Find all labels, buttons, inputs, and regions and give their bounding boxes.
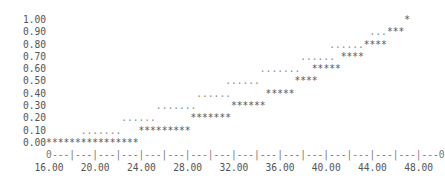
ascii-cdf-plot: 1.00 *0.90 ...***0.80 ......****0.70: [23, 14, 445, 174]
blank-space: [231, 88, 266, 99]
reference-dots: ......: [300, 51, 335, 62]
blank-space: [46, 125, 81, 136]
blank-space: [196, 100, 231, 111]
blank-space: [46, 14, 404, 25]
step-stars: *: [404, 14, 410, 25]
y-tick-label: 0.00: [23, 137, 46, 148]
y-tick-label: 0.20: [23, 112, 46, 123]
y-tick-label: 0.40: [23, 88, 46, 99]
blank-space: [46, 39, 329, 50]
step-stars: ****************: [46, 137, 138, 148]
blank-space: [121, 125, 138, 136]
plot-row: 1.00 *: [23, 14, 445, 26]
y-tick-label: 0.50: [23, 75, 46, 86]
x-axis-line: 0---|---|---|---|---|---|---|---|---|---…: [23, 149, 445, 161]
plot-row: 0.70 ...... ****: [23, 51, 445, 63]
y-tick-label: 0.30: [23, 100, 46, 111]
y-tick-label: 0.10: [23, 125, 46, 136]
step-stars: *******: [191, 112, 231, 123]
plot-row: 0.50 ...... ****: [23, 75, 445, 87]
blank-space: [46, 51, 300, 62]
step-stars: ***: [387, 26, 404, 37]
plot-row: 0.90 ...***: [23, 26, 445, 38]
reference-dots: .......: [156, 100, 196, 111]
reference-dots: .......: [81, 125, 121, 136]
x-tick-labels: 16.00 20.00 24.00 28.00 32.00 36.00 40.0…: [23, 162, 445, 174]
step-stars: ****: [294, 75, 317, 86]
plot-row: 0.00****************: [23, 137, 445, 149]
reference-dots: ...: [370, 26, 387, 37]
step-stars: *****: [266, 88, 295, 99]
step-stars: ****: [341, 51, 364, 62]
blank-space: [46, 26, 369, 37]
step-stars: ******: [231, 100, 266, 111]
reference-dots: ......: [329, 39, 364, 50]
y-tick-label: 0.80: [23, 39, 46, 50]
plot-row: 0.60 ....... *****: [23, 63, 445, 75]
step-stars: *****: [312, 63, 341, 74]
y-tick-label: 1.00: [23, 14, 46, 25]
reference-dots: ......: [225, 75, 260, 86]
blank-space: [46, 75, 225, 86]
blank-space: [46, 112, 121, 123]
plot-row: 0.40 ...... *****: [23, 88, 445, 100]
blank-space: [156, 112, 191, 123]
plot-row: 0.20 ...... *******: [23, 112, 445, 124]
y-tick-label: 0.60: [23, 63, 46, 74]
y-tick-label: 0.70: [23, 51, 46, 62]
step-stars: *********: [139, 125, 191, 136]
blank-space: [46, 88, 196, 99]
blank-space: [46, 63, 260, 74]
blank-space: [260, 75, 295, 86]
plot-row: 0.30 ....... ******: [23, 100, 445, 112]
plot-row: 0.80 ......****: [23, 39, 445, 51]
reference-dots: ......: [196, 88, 231, 99]
blank-space: [300, 63, 312, 74]
step-stars: ****: [364, 39, 387, 50]
reference-dots: .......: [260, 63, 300, 74]
plot-row: 0.10 ....... *********: [23, 125, 445, 137]
reference-dots: ......: [121, 112, 156, 123]
y-tick-label: 0.90: [23, 26, 46, 37]
blank-space: [46, 100, 156, 111]
